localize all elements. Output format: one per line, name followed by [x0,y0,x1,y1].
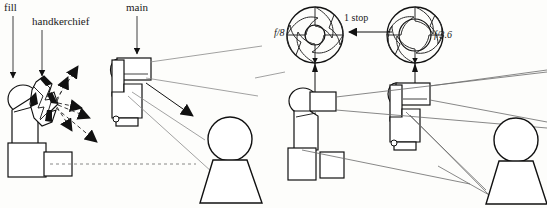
handkerchief-diffuser [30,76,58,126]
label-main: main [126,2,148,13]
dashed-scattered-light-rays [56,66,97,142]
solid-direct-light-ray [146,83,193,116]
label-handkerchief: handkerchief [32,16,89,27]
figure-canvas: fill handkerchief main f/8 f/3.6 1 stop [0,0,547,208]
label-fill: fill [4,2,17,13]
label-one-stop: 1 stop [344,13,368,23]
aperture-iris-f8 [287,7,343,63]
left-flash-unit [288,88,344,180]
main-flash-unit [111,58,152,126]
subject-figure-left [200,117,262,203]
subject-figure-right [486,118,547,204]
label-aperture-f8: f/8 [274,28,285,38]
label-aperture-f36: f/3.6 [434,30,452,40]
